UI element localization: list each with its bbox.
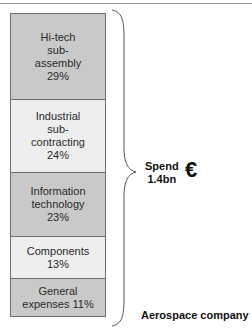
- segment-it: Information technology 23%: [11, 173, 105, 237]
- segment-label: Components 13%: [27, 245, 89, 271]
- segment-label: Hi-tech sub- assembly 29%: [35, 31, 81, 83]
- segment-hitech: Hi-tech sub- assembly 29%: [11, 14, 105, 100]
- spend-stack: Hi-tech sub- assembly 29% Industrial sub…: [10, 13, 106, 317]
- segment-general: General expenses 11%: [11, 279, 105, 316]
- top-rule: [0, 3, 252, 4]
- segment-label: Information technology 23%: [30, 185, 85, 224]
- segment-components: Components 13%: [11, 237, 105, 279]
- segment-label: General expenses 11%: [22, 285, 93, 311]
- curly-brace-icon: [110, 8, 140, 328]
- euro-icon: €: [185, 157, 197, 183]
- segment-industrial: Industrial sub- contracting 24%: [11, 100, 105, 173]
- spend-label: Spend 1.4bn: [145, 160, 179, 186]
- segment-label: Industrial sub- contracting 24%: [31, 110, 85, 162]
- company-label: Aerospace company: [141, 309, 249, 321]
